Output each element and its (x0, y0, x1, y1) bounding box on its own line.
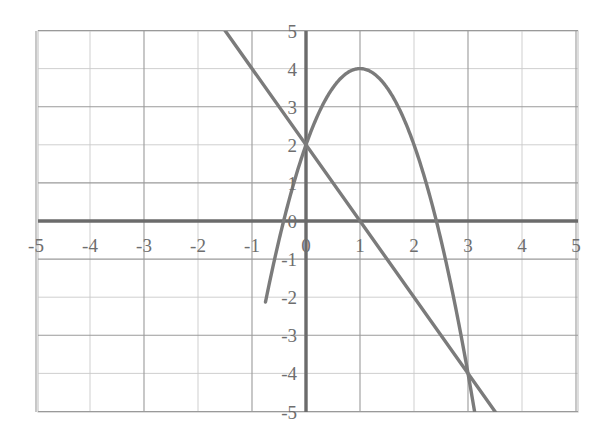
y-tick-label: -2 (281, 287, 297, 308)
x-tick-label: -4 (82, 235, 98, 256)
y-tick-label: 2 (288, 135, 298, 156)
y-tick-label: -5 (281, 402, 297, 423)
x-tick-label: -2 (190, 235, 206, 256)
y-tick-label: 5 (288, 21, 298, 42)
x-tick-label: 3 (463, 235, 473, 256)
y-tick-label: 4 (288, 59, 298, 80)
x-tick-label: 4 (517, 235, 527, 256)
coordinate-plane-svg: -5-4-3-2-1012345 543210-1-2-3-4-5 (0, 0, 611, 438)
x-tick-label: -5 (28, 235, 44, 256)
y-tick-label: 0 (288, 211, 298, 232)
x-tick-label: 5 (571, 235, 581, 256)
x-tick-label: 1 (355, 235, 365, 256)
y-tick-label: 1 (288, 173, 298, 194)
y-tick-label: -3 (281, 325, 297, 346)
x-tick-label: 2 (409, 235, 419, 256)
y-tick-label: -1 (281, 249, 297, 270)
x-tick-label: -3 (136, 235, 152, 256)
y-tick-label: 3 (288, 97, 298, 118)
x-tick-label: 0 (301, 235, 311, 256)
x-tick-label: -1 (244, 235, 260, 256)
graph-figure: -5-4-3-2-1012345 543210-1-2-3-4-5 (0, 0, 611, 438)
y-tick-label: -4 (281, 363, 297, 384)
